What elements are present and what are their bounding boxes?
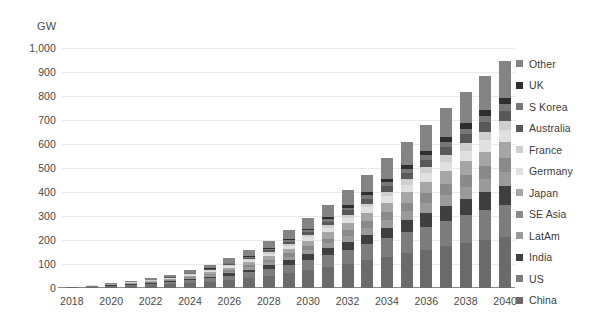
bar-segment-us (263, 269, 275, 276)
bar-segment-japan (401, 192, 413, 202)
legend-item-australia[interactable]: Australia (516, 118, 573, 140)
legend-item-uk[interactable]: UK (516, 75, 573, 97)
plot-area (62, 48, 515, 288)
bar-segment-japan (381, 203, 393, 212)
bar-segment-latam (499, 172, 511, 186)
bar-segment-india (460, 199, 472, 216)
x-axis-tick-label: 2038 (454, 295, 478, 307)
bar-2033[interactable] (361, 175, 373, 288)
bar-2038[interactable] (460, 92, 472, 288)
bar-2040[interactable] (499, 61, 511, 288)
legend-label: SE Asia (529, 208, 566, 220)
x-axis-tick-label: 2026 (218, 295, 242, 307)
bar-2026[interactable] (223, 258, 235, 288)
bar-2019[interactable] (86, 285, 98, 288)
x-axis-tick-label: 2028 (257, 295, 281, 307)
bar-2037[interactable] (440, 108, 452, 288)
bar-segment-other (342, 190, 354, 205)
x-axis-tick-label: 2020 (99, 295, 123, 307)
bar-2028[interactable] (263, 241, 275, 288)
bar-segment-latam (420, 203, 432, 213)
bar-2034[interactable] (381, 158, 393, 288)
bar-segment-japan (440, 171, 452, 183)
bar-segment-china (361, 260, 373, 288)
bar-segment-australia (460, 134, 472, 143)
x-axis-tick-label: 2022 (139, 295, 163, 307)
bar-segment-china (263, 276, 275, 288)
y-axis-unit-label: GW (37, 20, 56, 32)
bar-segment-latam (440, 195, 452, 206)
legend-item-latam[interactable]: LatAm (516, 225, 573, 247)
legend-swatch-icon (516, 232, 523, 239)
bar-segment-france (479, 132, 491, 140)
bar-2035[interactable] (401, 142, 413, 288)
bar-segment-china (499, 237, 511, 288)
bar-segment-se-asia (479, 166, 491, 179)
bar-segment-other (381, 158, 393, 178)
bar-segment-china (283, 273, 295, 288)
legend-item-france[interactable]: France (516, 139, 573, 161)
bar-segment-india (440, 206, 452, 221)
bar-2022[interactable] (145, 278, 157, 288)
legend-item-japan[interactable]: Japan (516, 182, 573, 204)
legend-item-india[interactable]: India (516, 247, 573, 269)
bar-2030[interactable] (302, 218, 314, 288)
legend-swatch-icon (516, 82, 523, 89)
bar-2020[interactable] (105, 283, 117, 288)
legend-label: US (529, 273, 544, 285)
bar-segment-us (460, 215, 472, 243)
x-axis-tick-label: 2034 (375, 295, 399, 307)
bar-segment-china (440, 246, 452, 288)
legend-item-china[interactable]: China (516, 290, 573, 312)
legend-item-germany[interactable]: Germany (516, 161, 573, 183)
bar-segment-us (499, 205, 511, 238)
bar-segment-china (381, 257, 393, 288)
bar-2039[interactable] (479, 76, 491, 288)
bar-2031[interactable] (322, 205, 334, 288)
bar-segment-se-asia (499, 158, 511, 172)
bar-2021[interactable] (125, 281, 137, 288)
x-axis-tick-label: 2030 (296, 295, 320, 307)
y-axis-tick-label: 200 (10, 234, 56, 246)
bar-2027[interactable] (243, 250, 255, 288)
bar-segment-china (479, 240, 491, 288)
legend-swatch-icon (516, 254, 523, 261)
bar-segment-china (145, 285, 157, 288)
legend-item-s-korea[interactable]: S Korea (516, 96, 573, 118)
y-axis-tick-label: 700 (10, 114, 56, 126)
legend-item-other[interactable]: Other (516, 53, 573, 75)
bar-segment-other (322, 205, 334, 218)
bar-2018[interactable] (66, 287, 78, 288)
legend-label: France (529, 144, 562, 156)
bar-segment-other (263, 241, 275, 248)
bar-segment-us (440, 221, 452, 246)
bar-segment-us (302, 260, 314, 270)
bar-2023[interactable] (164, 275, 176, 288)
legend-item-us[interactable]: US (516, 268, 573, 290)
x-axis-tick-label: 2040 (493, 295, 517, 307)
bar-2029[interactable] (283, 230, 295, 288)
gridline (62, 288, 515, 289)
legend-swatch-icon (516, 168, 523, 175)
legend-item-se-asia[interactable]: SE Asia (516, 204, 573, 226)
legend-swatch-icon (516, 275, 523, 282)
legend-swatch-icon (516, 297, 523, 304)
bar-segment-china (302, 270, 314, 288)
bar-segment-other (479, 76, 491, 110)
legend-swatch-icon (516, 60, 523, 67)
bar-2024[interactable] (184, 270, 196, 288)
bar-segment-other (460, 92, 472, 124)
legend-label: Germany (529, 165, 573, 177)
bar-segment-china (164, 284, 176, 288)
bar-2025[interactable] (204, 265, 216, 288)
bar-segment-france (499, 121, 511, 130)
bar-segment-japan (342, 223, 354, 230)
bar-2032[interactable] (342, 190, 354, 288)
bar-segment-germany (420, 173, 432, 182)
bar-2036[interactable] (420, 125, 432, 288)
bar-segment-germany (401, 185, 413, 193)
bar-segment-germany (381, 196, 393, 203)
bar-segment-india (322, 248, 334, 255)
bar-segment-se-asia (420, 193, 432, 203)
legend-label: S Korea (529, 101, 568, 113)
